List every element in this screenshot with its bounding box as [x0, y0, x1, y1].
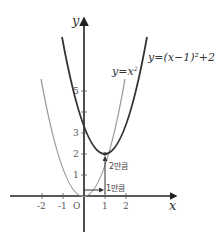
y-tick-label: 3 — [73, 128, 79, 138]
shift-x-label: 1만큼 — [106, 184, 125, 193]
x-tick-label: 1 — [102, 201, 108, 211]
y-tick-label: 1 — [73, 170, 79, 180]
x-tick-label: -2 — [37, 201, 46, 211]
origin-label: O — [73, 201, 80, 211]
x-axis-label: x — [169, 198, 177, 213]
x-tick-label: -1 — [58, 201, 67, 211]
graph-canvas: -2 -1 O 1 2 1 2 3 5 x y 1만큼 2만큼 y=x2 y=(… — [0, 0, 224, 246]
curve-label-shifted: y=(x−1)²+2 — [147, 51, 215, 64]
y-axis-label: y — [71, 13, 80, 28]
vertex-point — [103, 152, 107, 156]
curve-label-base: y=x2 — [111, 65, 138, 78]
y-tick-label: 2 — [73, 149, 79, 159]
parabola-base — [41, 79, 125, 197]
shift-y-label: 2만큼 — [109, 162, 128, 171]
x-tick-label: 2 — [123, 201, 129, 211]
